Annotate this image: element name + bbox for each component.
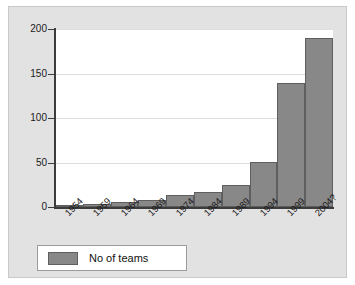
- bar-2004?: [305, 38, 333, 207]
- y-tick-mark-150: [48, 74, 55, 75]
- y-tick-mark-0: [48, 207, 55, 208]
- y-tick-label-0: 0: [13, 202, 47, 212]
- bar-1999: [277, 83, 305, 207]
- legend-swatch-no-of-teams: [48, 252, 78, 265]
- plot-area: [55, 29, 333, 207]
- chart-screenshot: 050100150200 195419591964196919741984198…: [0, 0, 355, 285]
- gridline-200: [55, 29, 333, 30]
- y-tick-label-50: 50: [13, 158, 47, 168]
- y-tick-label-150: 150: [13, 69, 47, 79]
- chart-panel: 050100150200 195419591964196919741984198…: [8, 6, 347, 278]
- chart-legend: No of teams: [37, 245, 187, 271]
- legend-label-no-of-teams: No of teams: [89, 252, 148, 264]
- gridline-150: [55, 74, 333, 75]
- y-tick-mark-50: [48, 163, 55, 164]
- y-tick-label-200: 200: [13, 24, 47, 34]
- y-axis-tick-labels: 050100150200: [9, 7, 47, 279]
- y-tick-mark-200: [48, 29, 55, 30]
- y-tick-mark-100: [48, 118, 55, 119]
- y-tick-label-100: 100: [13, 113, 47, 123]
